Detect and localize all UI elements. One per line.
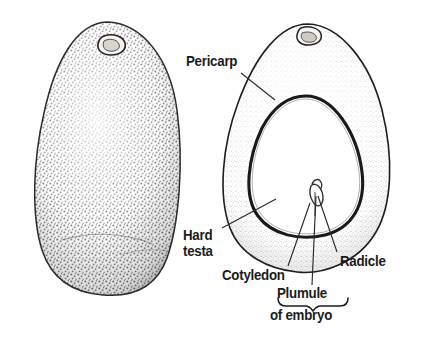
label-of-embryo: of embryo — [270, 308, 332, 324]
label-hard-testa: Hardtesta — [183, 228, 213, 259]
seed-diagram-figure: Pericarp Hardtesta Cotyledon Radicle Plu… — [0, 0, 436, 341]
label-plumule: Plumule — [277, 286, 327, 302]
label-radicle: Radicle — [340, 254, 386, 270]
label-hard-testa-line1: Hard — [183, 227, 212, 243]
label-cotyledon: Cotyledon — [222, 268, 285, 284]
section-hilum-scar — [297, 27, 321, 45]
diagram-canvas — [0, 0, 436, 341]
label-pericarp: Pericarp — [186, 54, 237, 70]
hilum-scar — [98, 35, 125, 55]
label-hard-testa-line2: testa — [183, 243, 213, 259]
